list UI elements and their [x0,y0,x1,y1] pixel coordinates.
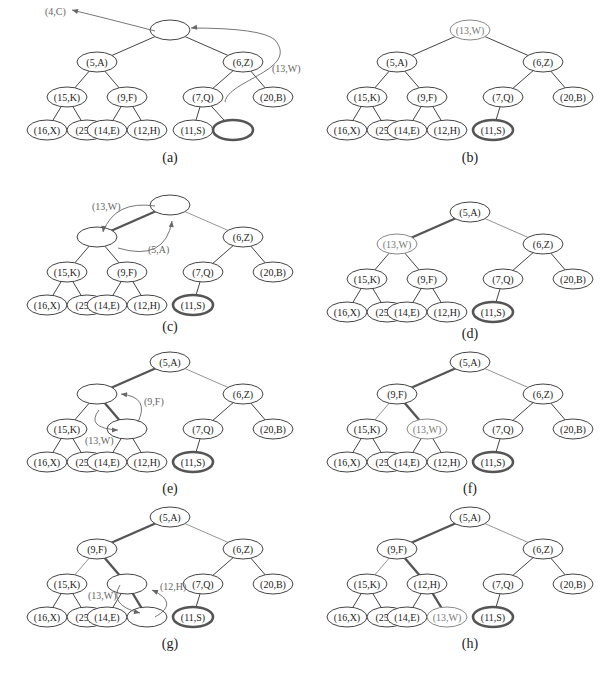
heap-node: (11,S) [473,120,513,140]
node-label: (7,Q) [492,274,513,286]
heap-node: (5,A) [450,352,490,372]
heap-node: (7,Q) [183,262,223,282]
heap-node: (13,W) [377,234,417,254]
node-label: (9,F) [387,389,407,401]
node-label: (11,S) [481,307,505,319]
node-label: (14,E) [94,300,119,312]
panel-label: (c) [162,319,178,335]
node-label: (14,E) [394,612,419,624]
node-label: (20,B) [260,267,286,279]
heap-diagram-canvas: (5,A)(6,Z)(15,K)(9,F)(7,Q)(20,B)(16,X)(2… [0,0,611,679]
heap-node: (14,E) [387,120,427,140]
heap-node: (20,B) [253,87,293,107]
arrowhead-icon [152,590,158,595]
heap-node: (16,X) [27,120,67,140]
node-label: (15,K) [54,92,80,104]
heap-node: (15,K) [347,419,387,439]
heap-node: (12,H) [427,120,467,140]
heap-node: (20,B) [253,574,293,594]
node-label: (9,F) [387,544,407,556]
entry-annotation: (13,W) [92,201,121,213]
node-label: (11,S) [181,300,205,312]
node-label: (11,S) [481,125,505,137]
heap-node: (5,A) [150,352,190,372]
node-label: (11,S) [481,457,505,469]
node-label: (20,B) [560,274,586,286]
heap-node [213,120,253,140]
node-label: (15,K) [54,424,80,436]
node-label: (15,K) [54,267,80,279]
heap-node: (14,E) [87,295,127,315]
heap-node: (13,W) [427,607,467,627]
node-label: (12,H) [434,125,460,137]
node-ellipse [77,384,117,404]
heap-node: (6,Z) [223,539,263,559]
heap-node: (13,W) [450,20,490,40]
entry-annotation: (13,W) [85,435,114,447]
heap-node: (7,Q) [483,419,523,439]
node-label: (20,B) [560,579,586,591]
panel-g: (5,A)(9,F)(6,Z)(15,K)(7,Q)(20,B)(16,X)(2… [27,507,293,652]
node-label: (12,H) [414,579,440,591]
node-label: (14,E) [94,457,119,469]
heap-node: (11,S) [173,295,213,315]
heap-node: (7,Q) [183,574,223,594]
heap-node: (16,X) [327,607,367,627]
heap-node: (12,H) [407,574,447,594]
node-label: (14,E) [394,307,419,319]
node-label: (13,W) [456,25,485,37]
heap-node: (11,S) [173,607,213,627]
heap-node: (7,Q) [183,87,223,107]
heap-node: (5,A) [150,507,190,527]
entry-annotation: (5,A) [148,244,169,256]
heap-node: (11,S) [173,120,213,140]
node-label: (20,B) [260,424,286,436]
heap-node: (14,E) [87,607,127,627]
heap-node: (14,E) [387,607,427,627]
node-label: (20,B) [560,92,586,104]
heap-node: (11,S) [473,452,513,472]
node-label: (9,F) [117,267,137,279]
heap-node: (9,F) [377,384,417,404]
node-label: (12,H) [434,457,460,469]
heap-node: (20,B) [253,262,293,282]
heap-node: (9,F) [77,539,117,559]
node-label: (16,X) [34,457,60,469]
node-label: (7,Q) [192,579,213,591]
node-label: (20,B) [260,92,286,104]
heap-node: (13,W) [407,419,447,439]
node-label: (12,H) [134,125,160,137]
heap-node: (20,B) [553,574,593,594]
node-label: (15,K) [354,92,380,104]
node-label: (16,X) [334,457,360,469]
node-ellipse [127,607,167,627]
heap-node: (6,Z) [523,384,563,404]
entry-annotation: (13,W) [88,590,117,602]
node-label: (13,W) [383,239,412,251]
arrowhead-icon [121,392,127,397]
node-label: (11,S) [481,612,505,624]
heap-node: (12,H) [127,120,167,140]
node-label: (9,F) [117,92,137,104]
heap-node: (9,F) [407,87,447,107]
node-label: (7,Q) [492,579,513,591]
heap-node: (6,Z) [523,539,563,559]
heap-node: (7,Q) [483,574,523,594]
heap-node: (14,E) [87,120,127,140]
heap-node: (6,Z) [223,52,263,72]
node-label: (7,Q) [192,424,213,436]
node-label: (9,F) [417,274,437,286]
node-label: (13,W) [413,424,442,436]
node-label: (14,E) [394,457,419,469]
node-label: (16,X) [34,612,60,624]
heap-node: (7,Q) [483,269,523,289]
heap-node: (5,A) [377,52,417,72]
arrowhead-icon [72,9,78,14]
node-label: (5,A) [459,207,480,219]
node-label: (6,Z) [233,389,253,401]
panel-label: (h) [462,636,479,652]
heap-node: (11,S) [473,607,513,627]
heap-node: (15,K) [47,87,87,107]
node-label: (15,K) [354,274,380,286]
heap-node: (16,X) [27,452,67,472]
